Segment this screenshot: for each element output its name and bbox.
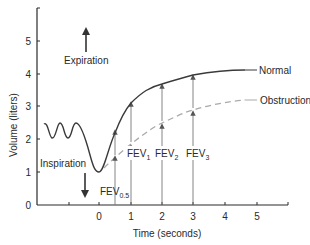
inspiration-label: Inspiration — [40, 158, 86, 169]
legend-normal: Normal — [259, 65, 291, 76]
spirometry-chart: 0 1 2 3 4 5 0 1 2 3 4 5 Volume (liters) … — [0, 0, 310, 245]
expiration-label: Expiration — [64, 55, 108, 66]
svg-text:2: 2 — [159, 211, 165, 222]
x-tick-labels: 0 1 2 3 4 5 — [96, 211, 260, 222]
fev-arrows — [115, 77, 193, 205]
x-axis-title: Time (seconds) — [133, 228, 202, 239]
inspiration-arrow-icon — [81, 173, 89, 198]
svg-text:0: 0 — [96, 211, 102, 222]
y-axis — [37, 8, 40, 205]
fev-labels: FEV0.5 FEV1 FEV2 FEV3 — [100, 146, 212, 199]
svg-text:1: 1 — [128, 211, 134, 222]
y-axis-title: Volume (liters) — [8, 93, 19, 157]
svg-text:5: 5 — [25, 36, 31, 47]
svg-text:4: 4 — [25, 69, 31, 80]
svg-text:0: 0 — [25, 200, 31, 211]
svg-text:2: 2 — [25, 134, 31, 145]
y-tick-labels: 0 1 2 3 4 5 — [25, 36, 31, 211]
svg-text:1: 1 — [25, 167, 31, 178]
svg-text:4: 4 — [222, 211, 228, 222]
svg-text:5: 5 — [254, 211, 260, 222]
svg-text:3: 3 — [190, 211, 196, 222]
svg-text:3: 3 — [25, 101, 31, 112]
x-axis — [37, 202, 288, 205]
legend-obstruction: Obstruction — [260, 95, 310, 106]
expiration-arrow-icon — [82, 27, 90, 52]
